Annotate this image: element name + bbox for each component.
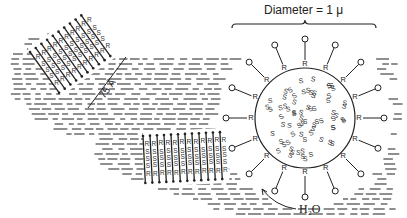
svg-text:R: R (200, 137, 205, 144)
svg-text:R: R (202, 167, 207, 174)
svg-text:R: R (323, 163, 329, 172)
svg-text:R: R (264, 151, 270, 160)
svg-text:R: R (146, 170, 151, 177)
svg-text:R: R (340, 75, 346, 84)
svg-text:R: R (209, 167, 214, 174)
svg-text:S: S (216, 158, 221, 165)
svg-text:R: R (173, 139, 178, 146)
svg-text:R: R (221, 136, 226, 143)
svg-text:R: R (160, 169, 165, 176)
svg-text:R: R (145, 140, 150, 147)
svg-text:S: S (302, 136, 307, 143)
svg-text:S: S (300, 147, 305, 154)
svg-text:R: R (207, 137, 212, 144)
svg-text:S: S (287, 122, 292, 129)
svg-text:R: R (340, 151, 346, 160)
svg-text:S: S (160, 161, 165, 168)
svg-text:R: R (356, 113, 362, 122)
svg-text:R: R (181, 168, 186, 175)
svg-text:S: S (181, 160, 186, 167)
svg-text:R: R (352, 92, 358, 101)
svg-text:S: S (153, 161, 158, 168)
svg-text:S: S (286, 105, 292, 112)
svg-text:S: S (174, 160, 179, 167)
svg-text:R: R (302, 167, 308, 176)
svg-text:R: R (252, 92, 258, 101)
svg-text:R: R (216, 167, 221, 174)
svg-text:R: R (352, 134, 358, 143)
spherical-micelle: SSSSSSSSSSSSSSSSSSSSSSSSSSSSSSSSSSSSSSSS… (223, 36, 387, 200)
svg-text:R: R (87, 16, 92, 23)
diagram-svg: RSSSRRSSSRRSSSRRSSSRRSSSRRSSSRRSSSRRSSSR… (0, 0, 407, 218)
svg-text:S: S (195, 159, 200, 166)
svg-text:R: R (264, 75, 270, 84)
svg-text:R: R (166, 139, 171, 146)
svg-text:S: S (101, 35, 106, 42)
svg-text:R: R (188, 168, 193, 175)
svg-text:S: S (202, 159, 207, 166)
diameter-label: Diameter = 1 μ (264, 3, 343, 17)
diameter-brace (232, 20, 376, 28)
lamellar-stack-lower: RSSSRRSSSRRSSSRRSSSRRSSSRRSSSRRSSSRRSSSR… (142, 128, 230, 187)
svg-text:S: S (305, 86, 311, 93)
svg-text:S: S (270, 130, 275, 137)
svg-text:R: R (195, 168, 200, 175)
svg-text:R: R (167, 169, 172, 176)
svg-text:R: R (106, 42, 111, 49)
svg-text:R: R (174, 169, 179, 176)
svg-text:R: R (282, 163, 288, 172)
svg-text:R: R (180, 138, 185, 145)
svg-text:R: R (214, 136, 219, 143)
svg-text:R: R (194, 138, 199, 145)
svg-text:R: R (302, 59, 308, 68)
svg-text:S: S (188, 159, 193, 166)
svg-text:R: R (187, 138, 192, 145)
water-label: H₂O (299, 202, 321, 217)
svg-text:S: S (223, 158, 228, 165)
svg-text:R: R (152, 140, 157, 147)
svg-text:S: S (146, 162, 151, 169)
svg-text:S: S (167, 161, 172, 168)
svg-text:S: S (209, 158, 214, 165)
svg-text:R: R (252, 134, 258, 143)
svg-text:S: S (303, 155, 308, 162)
svg-text:R: R (323, 63, 329, 72)
svg-text:R: R (248, 113, 254, 122)
svg-text:R: R (223, 166, 228, 173)
svg-text:R: R (153, 170, 158, 177)
svg-text:R: R (159, 139, 164, 146)
